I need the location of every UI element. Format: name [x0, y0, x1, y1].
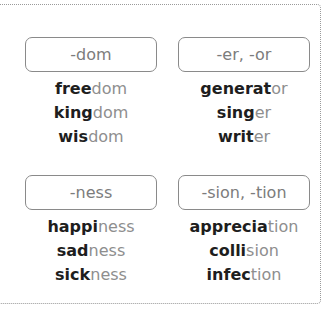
- word-item: sickness: [25, 263, 157, 287]
- word-item: collision: [178, 239, 310, 263]
- word-item: writer: [178, 125, 310, 149]
- word-stem: colli: [209, 241, 246, 260]
- word-stem: free: [55, 79, 92, 98]
- word-stem: king: [54, 103, 93, 122]
- word-ending: er: [254, 127, 270, 146]
- suffix-group-ness: -ness happiness sadness sickness: [25, 175, 157, 287]
- word-stem: infec: [207, 265, 251, 284]
- suffix-label: -dom: [70, 45, 111, 64]
- word-ending: dom: [93, 103, 129, 122]
- suffix-label: -er, -or: [217, 45, 272, 64]
- suffix-label-box: -dom: [25, 37, 157, 72]
- suffix-label: -sion, -tion: [201, 183, 286, 202]
- word-ending: or: [271, 79, 287, 98]
- word-ending: ness: [90, 265, 127, 284]
- word-item: freedom: [25, 77, 157, 101]
- word-list: generator singer writer: [178, 77, 310, 149]
- word-item: generator: [178, 77, 310, 101]
- word-ending: sion: [246, 241, 279, 260]
- word-ending: er: [255, 103, 271, 122]
- word-stem: wis: [58, 127, 88, 146]
- word-item: singer: [178, 101, 310, 125]
- word-item: infection: [178, 263, 310, 287]
- word-list: happiness sadness sickness: [25, 215, 157, 287]
- word-stem: generat: [200, 79, 271, 98]
- word-ending: tion: [251, 265, 282, 284]
- suffix-group-er-or: -er, -or generator singer writer: [178, 37, 310, 149]
- suffix-label-box: -er, -or: [178, 37, 310, 72]
- word-item: wisdom: [25, 125, 157, 149]
- word-stem: writ: [218, 127, 254, 146]
- word-ending: dom: [92, 79, 128, 98]
- word-ending: ness: [98, 217, 135, 236]
- word-stem: sad: [57, 241, 89, 260]
- suffix-group-sion-tion: -sion, -tion appreciation collision infe…: [178, 175, 310, 287]
- word-ending: dom: [88, 127, 124, 146]
- suffix-label-box: -sion, -tion: [178, 175, 310, 210]
- word-item: happiness: [25, 215, 157, 239]
- word-item: kingdom: [25, 101, 157, 125]
- word-stem: apprecia: [190, 217, 268, 236]
- word-item: sadness: [25, 239, 157, 263]
- word-stem: sing: [217, 103, 255, 122]
- word-stem: sick: [55, 265, 90, 284]
- word-list: appreciation collision infection: [178, 215, 310, 287]
- suffix-label: -ness: [70, 183, 112, 202]
- suffix-label-box: -ness: [25, 175, 157, 210]
- word-stem: happi: [47, 217, 98, 236]
- word-list: freedom kingdom wisdom: [25, 77, 157, 149]
- word-item: appreciation: [178, 215, 310, 239]
- word-ending: tion: [268, 217, 299, 236]
- suffix-group-dom: -dom freedom kingdom wisdom: [25, 37, 157, 149]
- word-ending: ness: [89, 241, 126, 260]
